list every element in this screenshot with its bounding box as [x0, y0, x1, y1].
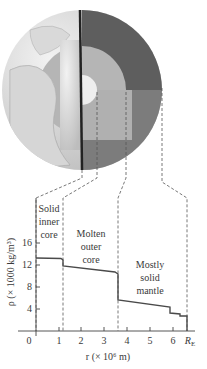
region-label-outer-2: outer — [81, 241, 102, 252]
x-tick-2: 2 — [79, 335, 84, 346]
x-tick-4: 4 — [125, 335, 130, 346]
y-tick-16: 16 — [22, 237, 32, 248]
density-curve — [36, 258, 187, 331]
region-label-mantle-3: mantle — [136, 285, 164, 296]
x-tick-re: RE — [184, 335, 195, 348]
region-label-inner-2: inner — [39, 216, 60, 227]
x-tick-1: 1 — [57, 335, 62, 346]
x-tick-0: 0 — [27, 335, 32, 346]
region-label-outer-3: core — [82, 254, 100, 265]
x-tick-5: 5 — [148, 335, 153, 346]
region-label-inner-3: core — [40, 229, 58, 240]
earth-density-figure: Solid inner core Molten outer core Mostl… — [0, 0, 207, 369]
y-tick-4: 4 — [27, 303, 32, 314]
region-label-outer-1: Molten — [77, 228, 106, 239]
x-tick-3: 3 — [102, 335, 107, 346]
y-axis-label: ρ (× 1000 kg/m³) — [5, 238, 17, 306]
region-label-inner-1: Solid — [38, 203, 59, 214]
region-label-mantle-2: solid — [140, 272, 159, 283]
x-axis-label: r (× 10⁶ m) — [86, 351, 130, 363]
y-tick-12: 12 — [22, 259, 32, 270]
region-label-mantle-1: Mostly — [136, 259, 164, 270]
y-tick-8: 8 — [27, 281, 32, 292]
earth-globe — [2, 0, 172, 180]
x-tick-6: 6 — [171, 335, 176, 346]
